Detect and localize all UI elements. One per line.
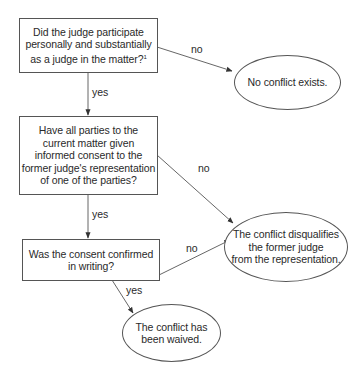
node-text-line: the former judge	[231, 241, 340, 254]
outcome-disqualified: The conflict disqualifies the former jud…	[224, 212, 348, 282]
node-text-line: The conflict disqualifies	[231, 228, 340, 241]
edge-label-q3-yes: yes	[126, 284, 142, 296]
edge-q2-no-arrow	[157, 155, 233, 223]
node-text-line: in writing?	[29, 260, 153, 273]
outcome-no-conflict: No conflict exists.	[234, 55, 341, 110]
edge-label-q1-no: no	[191, 43, 203, 55]
node-text-line: Have all parties to the	[22, 124, 155, 137]
edge-label-q3-no: no	[186, 242, 198, 254]
outcome-waived: The conflict has been waived.	[122, 304, 221, 362]
node-text-line: of one of the parties?	[22, 174, 155, 187]
edge-label-q2-no: no	[198, 162, 210, 174]
node-text-line: Did the judge participate	[25, 26, 151, 39]
decision-consent-in-writing: Was the consent confirmed in writing?	[22, 239, 160, 281]
node-text-line: Was the consent confirmed	[29, 248, 153, 261]
node-text-line: as a judge in the matter?1	[25, 51, 151, 66]
footnote-marker: 1	[143, 54, 146, 60]
decision-participated-as-judge: Did the judge participate personally and…	[19, 18, 158, 73]
node-text-line: current matter given	[22, 137, 155, 150]
decision-informed-consent: Have all parties to the current matter g…	[19, 116, 158, 195]
node-text-line: The conflict has	[136, 321, 208, 334]
edge-label-q2-yes: yes	[92, 208, 108, 220]
node-text-line: informed consent to the	[22, 149, 155, 162]
edge-label-q1-yes: yes	[92, 86, 108, 98]
node-text-line: former judge's representation	[22, 162, 155, 175]
node-text-line: been waived.	[136, 333, 208, 346]
node-text-line: from the representation.	[231, 253, 340, 266]
node-text-line: personally and substantially	[25, 38, 151, 51]
node-text-line: No conflict exists.	[248, 76, 328, 89]
